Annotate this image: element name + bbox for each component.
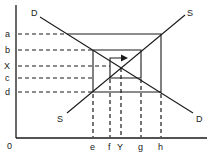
label-a: a <box>5 29 10 39</box>
label-f: f <box>108 142 111 152</box>
label-Y: Y <box>117 142 123 152</box>
demand-label-bottom: D <box>196 114 203 124</box>
demand-label-top: D <box>31 8 38 18</box>
label-d: d <box>5 87 10 97</box>
supply-label-bottom: S <box>57 114 63 124</box>
label-X: X <box>4 61 10 71</box>
origin-label: 0 <box>7 141 12 151</box>
label-b: b <box>5 45 10 55</box>
cobweb-diagram: a b X c d 0 e f Y g h D D S S <box>0 0 220 160</box>
label-e: e <box>90 142 95 152</box>
demand-curve <box>40 17 193 113</box>
supply-label-top: S <box>187 8 193 18</box>
cobweb-arrow-icon <box>121 55 128 62</box>
supply-curve <box>67 15 185 113</box>
label-g: g <box>138 142 143 152</box>
label-h: h <box>158 142 163 152</box>
label-c: c <box>5 73 10 83</box>
